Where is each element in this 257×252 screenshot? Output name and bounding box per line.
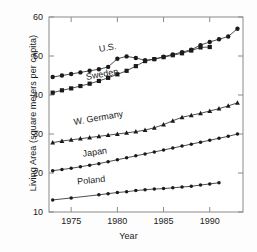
data-point [69,86,73,90]
data-point [69,72,73,76]
data-point [236,132,240,136]
y-tick-label: 10 [33,207,43,217]
data-point [88,82,92,86]
data-point [143,59,147,63]
y-tick-label: 60 [33,12,43,22]
data-point [106,160,110,164]
data-point [51,198,55,202]
data-point [106,192,110,196]
data-point [134,56,138,60]
data-point [143,188,147,192]
x-tick-label: 1980 [107,216,127,226]
data-point [180,185,184,189]
chart-figure: 1020304050601975198019851990 U.S.SwedenW… [0,0,257,252]
y-axis-label: Living Area (square meters per capita) [28,28,38,198]
data-point [153,187,157,191]
data-point [116,191,120,195]
data-point [69,196,73,200]
data-point [78,84,82,88]
data-point [78,70,82,74]
data-point [189,48,193,52]
data-point [198,45,202,49]
data-point [180,51,184,55]
data-point [217,137,221,141]
data-point [190,185,194,189]
data-point [171,186,175,190]
data-point [152,57,156,61]
data-point [217,37,221,41]
x-tick-label: 1990 [200,216,220,226]
data-point [153,150,157,154]
data-point [208,40,212,44]
x-tick-label: 1985 [154,216,174,226]
data-point [134,154,138,158]
data-point [226,135,230,139]
data-point [143,152,147,156]
data-point [88,163,92,167]
data-point [97,162,101,166]
data-point [190,142,194,146]
data-point [50,75,54,79]
data-point [208,138,212,142]
data-point [162,187,166,191]
x-tick-label: 1975 [61,216,81,226]
data-point [134,64,138,68]
data-point [171,146,175,150]
data-point [51,169,55,173]
data-point [116,158,120,162]
data-point [97,193,101,197]
line-chart: 1020304050601975198019851990 U.S.SwedenW… [0,0,257,252]
data-point [226,34,230,38]
data-point [208,182,212,186]
data-point [199,183,203,187]
data-point [124,54,128,58]
data-point [134,189,138,193]
data-point [217,181,221,185]
data-point [235,27,239,31]
data-point [161,55,165,59]
data-point [79,165,83,169]
data-point [51,91,55,95]
data-point [125,156,129,160]
data-point [69,167,73,171]
data-point [60,88,64,92]
data-point [125,190,129,194]
data-point [60,73,64,77]
data-point [199,140,203,144]
x-axis-label: Year [0,231,257,241]
data-point [60,168,64,172]
data-point [162,148,166,152]
data-point [208,45,212,49]
data-point [125,69,129,73]
data-point [115,57,119,61]
data-point [180,144,184,148]
data-point [171,53,175,57]
